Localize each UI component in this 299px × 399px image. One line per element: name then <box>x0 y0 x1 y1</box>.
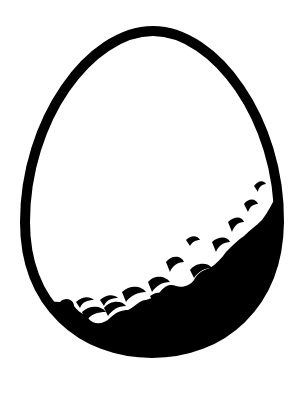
egg-illustration <box>0 0 299 399</box>
egg-icon <box>0 0 299 399</box>
